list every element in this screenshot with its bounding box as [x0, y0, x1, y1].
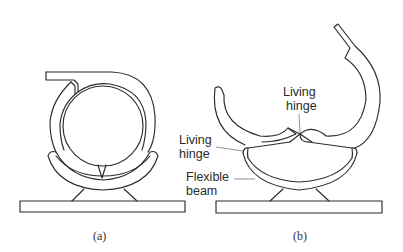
cradle-top-b — [243, 142, 357, 153]
leader-living-hinge-side — [216, 147, 243, 151]
label-living-hinge-top-2: hinge — [286, 99, 317, 113]
flexible-beam-b-inner — [248, 158, 352, 182]
support-neck-b — [270, 189, 329, 201]
caption-b: (b) — [293, 229, 307, 243]
panel-a: (a) — [20, 72, 185, 243]
panel-b: Living hinge Living hinge Flexible beam … — [179, 24, 382, 243]
caption-a: (a) — [93, 229, 106, 243]
base-plate-a — [20, 201, 185, 212]
label-flexible-beam-2: beam — [186, 184, 217, 198]
base-plate-b — [216, 201, 382, 213]
ring-arm-a-left — [50, 82, 71, 152]
label-living-hinge-top-1: Living — [283, 85, 316, 99]
circular-rod-a — [63, 86, 143, 166]
support-neck-a — [72, 189, 137, 201]
label-living-hinge-side-2: hinge — [179, 147, 210, 161]
label-living-hinge-side-1: Living — [179, 133, 212, 147]
leader-living-hinge-top — [299, 114, 300, 133]
snap-fit-clip-figure: (a) Living hinge Living hinge Flexible b… — [0, 0, 403, 252]
flexible-beam-a-outer — [48, 152, 158, 191]
ring-arm-a-inner — [60, 84, 146, 150]
hook-tab-a-2 — [71, 82, 75, 94]
hook-tab-a — [46, 72, 78, 92]
cradle-inner-b — [248, 148, 353, 158]
label-flexible-beam-1: Flexible — [186, 170, 229, 184]
flexible-beam-b-outer — [243, 153, 357, 190]
